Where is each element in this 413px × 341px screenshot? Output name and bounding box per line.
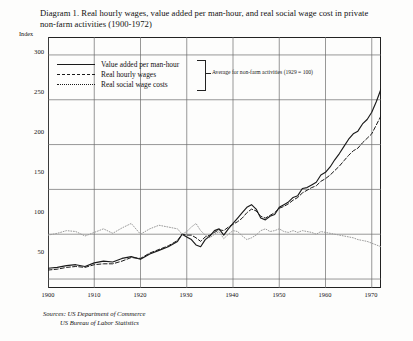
- y-tick-250: 250: [20, 88, 44, 95]
- sources-note: Sources: US Department of Commerce US Bu…: [43, 309, 145, 327]
- sources-line-1: US Department of Commerce: [67, 310, 145, 317]
- chart-title: Diagram 1. Real hourly wages, value adde…: [40, 8, 370, 30]
- y-tick-50: 50: [20, 248, 44, 255]
- x-tick-1920: 1920: [125, 291, 155, 298]
- x-tick-1970: 1970: [356, 291, 386, 298]
- y-tick-150: 150: [20, 168, 44, 175]
- x-tick-1910: 1910: [79, 291, 109, 298]
- legend-label-real-social-wage-costs: Real social wage costs: [101, 80, 168, 89]
- legend-line-dotted-icon: [57, 81, 95, 88]
- y-tick-200: 200: [20, 128, 44, 135]
- y-tick-300: 300: [20, 48, 44, 55]
- x-tick-1950: 1950: [264, 291, 294, 298]
- sources-line-2: US Bureau of Labor Statistics: [60, 318, 145, 327]
- x-tick-1960: 1960: [310, 291, 340, 298]
- x-tick-1900: 1900: [33, 291, 63, 298]
- chart-figure: Diagram 1. Real hourly wages, value adde…: [0, 0, 413, 341]
- legend-item-real-social-wage-costs: Real social wage costs: [57, 79, 287, 89]
- legend-line-dashed-icon: [57, 71, 95, 78]
- legend-brace-icon: [197, 60, 206, 91]
- y-axis-unit-label: Index: [19, 30, 33, 37]
- sources-label: Sources: US Department of Commerce: [43, 310, 145, 317]
- legend-item-value-added: Value added per man-hour: [57, 59, 287, 69]
- y-tick-100: 100: [20, 208, 44, 215]
- x-tick-1930: 1930: [171, 291, 201, 298]
- legend-line-solid-icon: [57, 61, 95, 68]
- x-tick-1940: 1940: [217, 291, 247, 298]
- legend-label-real-hourly-wages: Real hourly wages: [101, 70, 156, 79]
- legend-annotation: Average for non-farm activities (1929 = …: [212, 69, 313, 75]
- legend-brace-tick-icon: [206, 73, 211, 74]
- legend-label-value-added: Value added per man-hour: [101, 60, 179, 69]
